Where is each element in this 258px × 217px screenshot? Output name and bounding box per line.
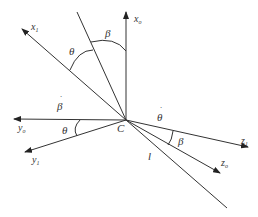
label-z-o: zo — [220, 157, 228, 169]
arc-theta-left — [75, 120, 80, 136]
label-x-1: x1 — [30, 21, 38, 33]
line-l — [126, 120, 227, 208]
label-theta-top: θ — [69, 45, 75, 57]
label-x-o: xo — [133, 13, 141, 25]
label-y-o: yo — [17, 122, 25, 134]
arc-beta-top — [91, 40, 126, 51]
dot-beta: ˙ — [59, 94, 62, 104]
arc-beta-right — [168, 131, 173, 145]
axis-x-1 — [22, 29, 126, 120]
label-theta-left: θ — [62, 124, 68, 136]
label-z-1: z1 — [240, 135, 248, 147]
label-beta-top: β — [104, 27, 111, 39]
dot-theta: ˙ — [159, 105, 162, 115]
axis-y-o — [14, 119, 126, 120]
line-l-upper — [77, 12, 126, 120]
axis-y-1 — [25, 120, 126, 152]
label-beta-right: β — [177, 135, 184, 147]
axis-z-1 — [126, 120, 248, 147]
label-origin-c: C — [117, 122, 125, 134]
axis-z-o — [126, 120, 220, 173]
label-y-1: y1 — [31, 154, 39, 166]
coordinate-diagram: xo x1 θ β β ˙ yo θ C y1 θ ˙ β z1 zo l — [0, 0, 258, 217]
label-l: l — [148, 150, 151, 162]
